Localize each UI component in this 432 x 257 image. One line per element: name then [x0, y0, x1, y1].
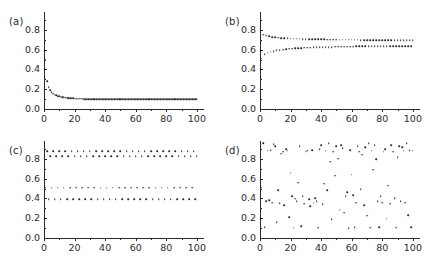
data-point [63, 187, 65, 189]
data-point [279, 49, 281, 51]
data-point [378, 226, 380, 228]
data-point [333, 151, 335, 153]
data-point [112, 187, 114, 189]
data-point [114, 151, 116, 153]
data-point [262, 142, 264, 144]
x-tick [75, 109, 76, 112]
x-tick-label: 40 [315, 114, 327, 124]
y-tick-label: 0.4 [241, 194, 256, 204]
data-point [267, 150, 269, 152]
data-point [366, 215, 368, 217]
data-point [159, 156, 161, 158]
x-tick-label: 40 [99, 243, 111, 253]
y-tick [44, 30, 47, 31]
data-point [195, 199, 197, 201]
data-point [45, 187, 47, 189]
x-tick [291, 109, 292, 112]
x-tick-minor [306, 109, 307, 111]
data-point [304, 203, 306, 205]
data-point [107, 151, 109, 153]
data-point [89, 151, 91, 153]
data-point [270, 51, 272, 53]
panel-a-x-axis [44, 109, 204, 110]
y-tick [44, 69, 47, 70]
data-point [375, 159, 377, 161]
data-point [374, 144, 376, 146]
x-tick [105, 238, 106, 241]
y-tick-minor [260, 40, 262, 41]
data-point [141, 156, 143, 158]
data-point [313, 202, 315, 204]
data-point [336, 39, 338, 41]
x-tick-label: 80 [160, 114, 172, 124]
panel-b: (b) 0.00.20.40.60.8020406080100 [216, 0, 432, 129]
y-tick-label: 0.2 [241, 213, 256, 223]
data-point [132, 151, 134, 153]
x-tick-label: 60 [130, 243, 142, 253]
y-tick [260, 159, 263, 160]
y-tick-label: 0.2 [25, 213, 40, 223]
data-point [388, 39, 390, 41]
panel-d-y-axis [260, 141, 261, 238]
data-point [300, 225, 302, 227]
data-point [294, 48, 296, 50]
data-point [69, 187, 71, 189]
data-point [400, 201, 402, 203]
y-tick-minor [260, 149, 262, 150]
data-point [196, 156, 198, 158]
data-point [326, 190, 328, 192]
panel-b-tag: (b) [225, 16, 240, 27]
data-point [271, 36, 273, 38]
data-point [297, 47, 299, 49]
data-point [281, 37, 283, 39]
data-point [316, 47, 318, 49]
data-point [290, 172, 292, 174]
data-point [391, 144, 393, 146]
data-point [343, 212, 345, 214]
x-tick-minor [182, 109, 183, 111]
data-point [323, 39, 325, 41]
data-point [288, 48, 290, 50]
y-tick-minor [44, 189, 46, 190]
data-point [276, 221, 278, 223]
data-point [346, 46, 348, 48]
x-tick-label: 0 [257, 114, 263, 124]
data-point [308, 38, 310, 40]
data-point [285, 48, 287, 50]
data-point [349, 149, 351, 151]
data-point [352, 46, 354, 48]
data-point [365, 46, 367, 48]
data-point [129, 156, 131, 158]
data-point [62, 156, 64, 158]
x-tick-minor [120, 109, 121, 111]
x-tick-label: 100 [404, 243, 422, 253]
data-point [271, 202, 273, 204]
data-point [369, 227, 371, 229]
data-point [322, 46, 324, 48]
data-point [124, 187, 126, 189]
data-point [91, 199, 93, 201]
data-point [123, 156, 125, 158]
data-point [354, 226, 356, 228]
data-point [359, 151, 361, 153]
data-point [71, 151, 73, 153]
panel-c: (c) 0.00.20.40.60.8020406080100 [0, 129, 216, 257]
x-tick-minor [151, 109, 152, 111]
y-tick-minor [44, 149, 46, 150]
data-point [300, 47, 302, 49]
x-tick-label: 80 [160, 243, 172, 253]
y-tick [44, 198, 47, 199]
data-point [101, 151, 103, 153]
data-point [404, 45, 406, 47]
data-point [371, 150, 373, 152]
data-point [98, 156, 100, 158]
data-point [133, 199, 135, 201]
x-tick-minor [275, 109, 276, 111]
data-point [65, 151, 67, 153]
x-tick [105, 109, 106, 112]
data-point [391, 39, 393, 41]
data-point [293, 38, 295, 40]
x-tick [44, 238, 45, 241]
x-tick [75, 238, 76, 241]
data-point [394, 198, 396, 200]
